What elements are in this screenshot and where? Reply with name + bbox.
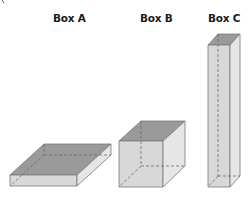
box-c-front-face [208,45,230,187]
box-a [10,144,111,186]
boxes-diagram [0,0,250,197]
cropped-text-fragment [2,0,4,3]
box-b [119,121,185,187]
box-c-side-face [230,34,240,187]
box-c [208,34,240,187]
